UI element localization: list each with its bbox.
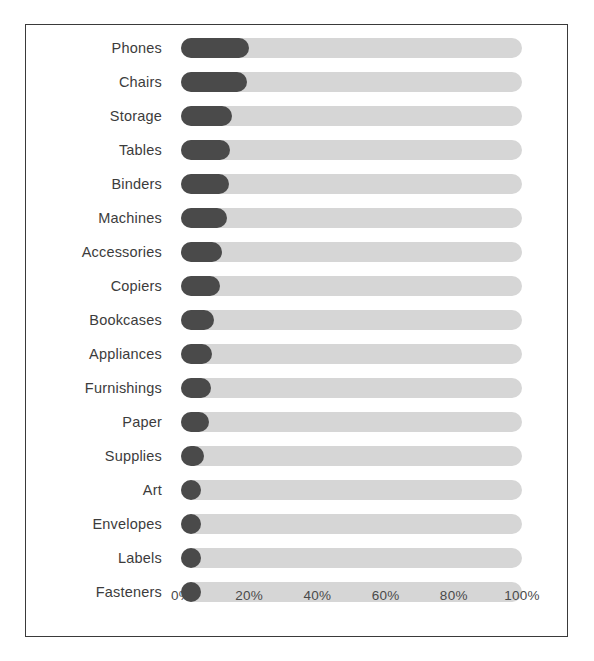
bar-fill [181, 378, 211, 398]
x-axis: 0%20%40%60%80%100% [181, 588, 522, 608]
category-label: Art [26, 473, 162, 507]
bar-row: Art [26, 473, 567, 507]
clipped-chart-title [0, 0, 594, 22]
bar-fill [181, 548, 201, 568]
category-label: Machines [26, 201, 162, 235]
category-label: Appliances [26, 337, 162, 371]
bar-row: Envelopes [26, 507, 567, 541]
x-axis-tick-label: 20% [235, 588, 263, 603]
bar-row: Machines [26, 201, 567, 235]
bar-track [181, 446, 522, 466]
category-label: Furnishings [26, 371, 162, 405]
bar-row: Labels [26, 541, 567, 575]
bar-track [181, 106, 522, 126]
bar-fill [181, 446, 204, 466]
category-label: Bookcases [26, 303, 162, 337]
category-label: Storage [26, 99, 162, 133]
bar-fill [181, 514, 201, 534]
bar-track [181, 548, 522, 568]
bar-track [181, 310, 522, 330]
category-label: Binders [26, 167, 162, 201]
bar-fill [181, 242, 222, 262]
bar-track [181, 276, 522, 296]
bar-row: Accessories [26, 235, 567, 269]
bar-fill [181, 38, 249, 58]
category-label: Chairs [26, 65, 162, 99]
bar-track [181, 140, 522, 160]
bar-fill [181, 412, 209, 432]
bar-track [181, 344, 522, 364]
bar-row: Binders [26, 167, 567, 201]
category-label: Envelopes [26, 507, 162, 541]
bar-row: Bookcases [26, 303, 567, 337]
bar-row: Tables [26, 133, 567, 167]
category-label: Supplies [26, 439, 162, 473]
category-label: Tables [26, 133, 162, 167]
bar-track [181, 378, 522, 398]
bar-fill [181, 208, 227, 228]
bar-fill [181, 140, 230, 160]
chart-frame: PhonesChairsStorageTablesBindersMachines… [25, 24, 568, 637]
bar-row: Copiers [26, 269, 567, 303]
bar-fill [181, 276, 220, 296]
bar-row: Chairs [26, 65, 567, 99]
bar-track [181, 174, 522, 194]
bar-fill [181, 310, 214, 330]
bar-row: Furnishings [26, 371, 567, 405]
bar-fill [181, 480, 201, 500]
bar-row: Paper [26, 405, 567, 439]
x-axis-tick-label: 40% [303, 588, 331, 603]
bar-row: Phones [26, 31, 567, 65]
x-axis-tick-label: 80% [440, 588, 468, 603]
category-label: Fasteners [26, 575, 162, 609]
bar-fill [181, 72, 247, 92]
category-label: Paper [26, 405, 162, 439]
bar-row: Storage [26, 99, 567, 133]
category-label: Accessories [26, 235, 162, 269]
bar-track [181, 242, 522, 262]
bar-track [181, 208, 522, 228]
bar-row: Supplies [26, 439, 567, 473]
bar-row: Appliances [26, 337, 567, 371]
bar-chart-plot-area: PhonesChairsStorageTablesBindersMachines… [26, 25, 567, 636]
bar-track [181, 514, 522, 534]
x-axis-tick-label: 0% [171, 588, 191, 603]
bar-track [181, 38, 522, 58]
bar-track [181, 72, 522, 92]
bar-fill [181, 344, 212, 364]
bar-fill [181, 174, 229, 194]
category-label: Phones [26, 31, 162, 65]
x-axis-tick-label: 60% [372, 588, 400, 603]
category-label: Labels [26, 541, 162, 575]
bar-fill [181, 106, 232, 126]
x-axis-tick-label: 100% [504, 588, 540, 603]
bar-track [181, 480, 522, 500]
bar-track [181, 412, 522, 432]
category-label: Copiers [26, 269, 162, 303]
